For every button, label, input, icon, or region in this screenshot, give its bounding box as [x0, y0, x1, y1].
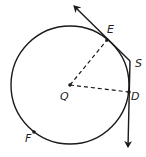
label-f: F — [25, 132, 32, 145]
radius-qe — [70, 40, 107, 85]
tangent-ray-se — [74, 6, 130, 61]
label-e: E — [107, 23, 114, 36]
label-d: D — [131, 90, 139, 103]
label-q: Q — [60, 90, 69, 103]
point-f — [32, 130, 36, 134]
label-s: S — [135, 57, 142, 70]
geometry-diagram: Q E S D F — [0, 0, 146, 157]
point-e — [105, 38, 109, 42]
radius-qd — [70, 85, 129, 92]
point-q — [68, 83, 72, 87]
